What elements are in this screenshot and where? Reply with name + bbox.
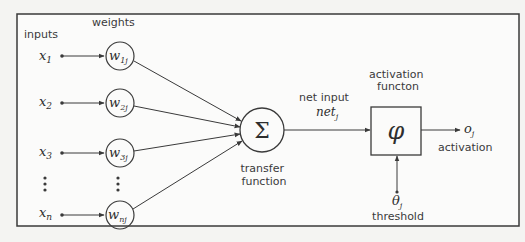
neuron-diagram: inputs weights x1 w1j x2 w2j x3 w3j xn w…	[0, 0, 525, 242]
net-j-label: netj	[316, 105, 339, 121]
transfer-function-label: transfer function	[241, 162, 288, 188]
output-activation-label: activation	[438, 141, 493, 154]
inputs-label: inputs	[24, 28, 58, 41]
net-input-label: net input	[299, 91, 350, 104]
weights-label: weights	[92, 16, 135, 29]
phi-icon: φ	[388, 117, 405, 145]
activation-function-label: activation functon	[369, 68, 427, 93]
ellipsis-inputs	[43, 176, 46, 191]
ellipsis-weights	[116, 176, 119, 191]
sigma-icon: Σ	[254, 118, 270, 143]
threshold-label: threshold	[372, 210, 424, 223]
